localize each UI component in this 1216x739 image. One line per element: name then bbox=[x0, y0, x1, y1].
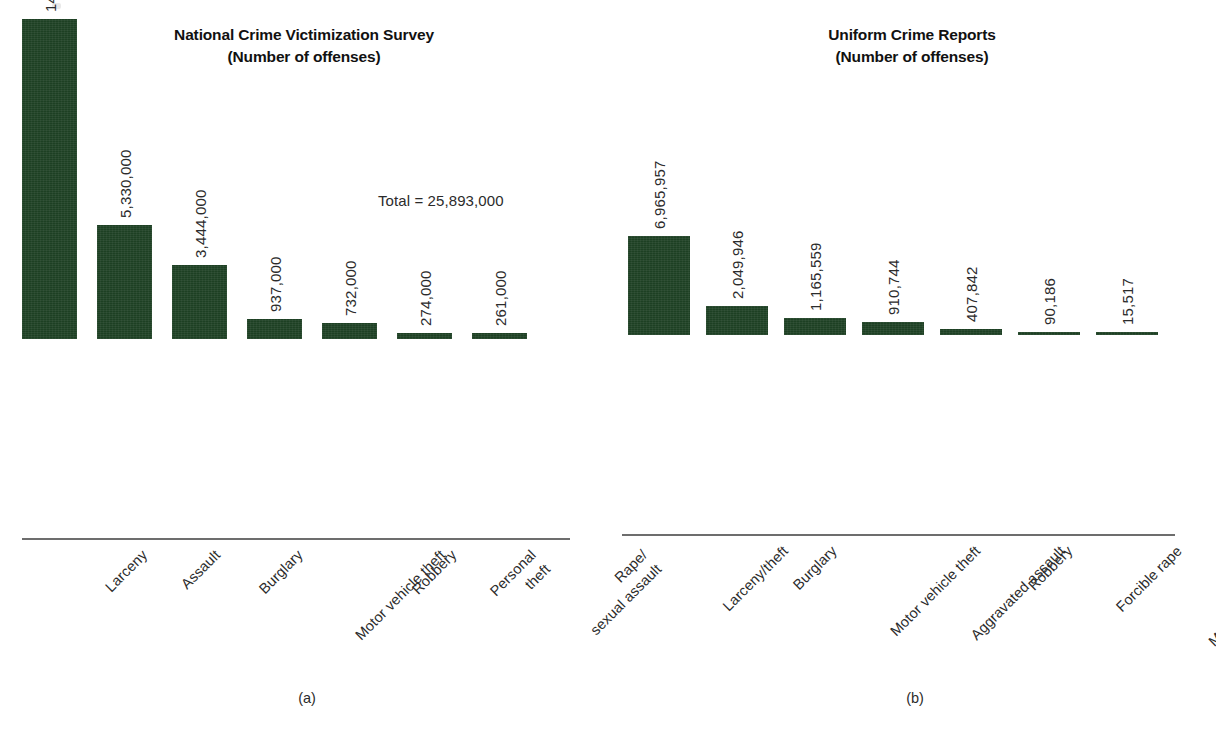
x-axis-label: Larceny/theft bbox=[719, 542, 793, 616]
bar-slot: 90,186 bbox=[1018, 5, 1080, 335]
x-axis-label-line: Larceny bbox=[102, 547, 150, 595]
panel-caption-a: (a) bbox=[287, 690, 327, 706]
bar-value-text: 261,000 bbox=[491, 271, 508, 327]
bar[interactable]: 910,744 bbox=[862, 322, 924, 335]
panel-national-crime-victimization-survey: National Crime Victimization Survey (Num… bbox=[0, 0, 608, 739]
bar[interactable]: 1,165,559 bbox=[784, 318, 846, 335]
bar-slot: 14,916,000 bbox=[22, 9, 77, 339]
panel-uniform-crime-reports: Uniform Crime Reports (Number of offense… bbox=[608, 0, 1216, 739]
bar-value-label: 910,744 bbox=[876, 259, 893, 315]
bar-group-a: 14,916,0005,330,0003,444,000937,000732,0… bbox=[22, 9, 570, 339]
bar[interactable]: 732,000 bbox=[322, 323, 377, 339]
bar[interactable]: 261,000 bbox=[472, 333, 527, 339]
x-axis-labels-b: Larceny/theftBurglaryMotor vehicle theft… bbox=[622, 542, 1175, 682]
bar[interactable]: 274,000 bbox=[397, 333, 452, 339]
bar-slot: 732,000 bbox=[322, 9, 377, 339]
bar[interactable]: 90,186 bbox=[1018, 332, 1080, 335]
x-axis-label-line: Motor vehicle theft bbox=[887, 543, 983, 639]
x-axis-label-line: Assault bbox=[177, 547, 222, 592]
x-axis-label: Murder/nonnegligentmanslaughter bbox=[1205, 542, 1216, 665]
x-axis-label-line: Forcible rape bbox=[1112, 543, 1184, 615]
bar-slot: 261,000 bbox=[472, 9, 527, 339]
x-axis-label: Personaltheft bbox=[485, 546, 554, 615]
bar-value-label: 732,000 bbox=[333, 261, 350, 317]
x-axis-label: Forcible rape bbox=[1112, 542, 1187, 617]
x-axis-label: Assault bbox=[177, 546, 225, 594]
bar-slot: 6,965,957 bbox=[628, 5, 690, 335]
x-axis-label-line: Burglary bbox=[789, 543, 839, 593]
bar-value-label: 15,517 bbox=[1110, 278, 1127, 325]
bar-value-text: 937,000 bbox=[266, 256, 283, 312]
bar[interactable]: 6,965,957 bbox=[628, 236, 690, 335]
bar-value-label: 261,000 bbox=[483, 271, 500, 327]
x-axis-label: Burglary bbox=[255, 546, 308, 599]
x-axis-label-line: Burglary bbox=[256, 547, 306, 597]
bar[interactable]: 15,517 bbox=[1096, 332, 1158, 335]
bar-slot: 274,000 bbox=[397, 9, 452, 339]
bar[interactable]: 14,916,000 bbox=[22, 19, 77, 339]
bar-value-text: 732,000 bbox=[341, 261, 358, 317]
bar-value-label: 90,186 bbox=[1032, 278, 1049, 325]
x-axis-label: Burglary bbox=[789, 542, 842, 595]
crime-statistics-figure: National Crime Victimization Survey (Num… bbox=[0, 0, 1216, 739]
bar-value-text: 1,165,559 bbox=[807, 243, 824, 312]
bar-value-text: 90,186 bbox=[1041, 278, 1058, 325]
bar-value-label: 5,330,000 bbox=[108, 149, 125, 218]
bar-value-label: 14,916,000 bbox=[33, 0, 50, 12]
x-axis-labels-a: LarcenyAssaultBurglaryMotor vehicle thef… bbox=[22, 546, 570, 686]
bar-value-text: 407,842 bbox=[963, 267, 980, 323]
x-axis-label: Larceny bbox=[101, 546, 152, 597]
bar-slot: 910,744 bbox=[862, 5, 924, 335]
bar-group-b: 6,965,9572,049,9461,165,559910,744407,84… bbox=[622, 5, 1175, 335]
bar[interactable]: 407,842 bbox=[940, 329, 1002, 335]
bar-value-label: 274,000 bbox=[408, 271, 425, 327]
bar-slot: 937,000 bbox=[247, 9, 302, 339]
bar-value-label: 2,049,946 bbox=[720, 230, 737, 299]
plot-area-a: 14,916,0005,330,0003,444,000937,000732,0… bbox=[22, 0, 570, 540]
bar-value-label: 6,965,957 bbox=[642, 160, 659, 229]
bar-value-text: 274,000 bbox=[416, 271, 433, 327]
bar[interactable]: 937,000 bbox=[247, 319, 302, 339]
plot-area-b: 6,965,9572,049,9461,165,559910,744407,84… bbox=[622, 0, 1175, 540]
bar-value-label: 937,000 bbox=[258, 256, 275, 312]
x-axis-line-b bbox=[622, 534, 1175, 536]
bar-slot: 5,330,000 bbox=[97, 9, 152, 339]
bar-value-text: 910,744 bbox=[885, 259, 902, 315]
x-axis-label-line: Murder/nonnegligent bbox=[1205, 543, 1216, 650]
bar-slot: 3,444,000 bbox=[172, 9, 227, 339]
bar-value-text: 6,965,957 bbox=[651, 160, 668, 229]
panel-caption-b: (b) bbox=[895, 690, 935, 706]
bar-slot: 2,049,946 bbox=[706, 5, 768, 335]
bar[interactable]: 2,049,946 bbox=[706, 306, 768, 335]
bar[interactable]: 3,444,000 bbox=[172, 265, 227, 339]
bar-value-text: 15,517 bbox=[1119, 278, 1136, 325]
bar-value-label: 3,444,000 bbox=[183, 190, 200, 259]
bar-slot: 407,842 bbox=[940, 5, 1002, 335]
x-axis-label-line: Larceny/theft bbox=[720, 543, 792, 615]
bar-value-text: 14,916,000 bbox=[41, 0, 58, 12]
bar-value-text: 2,049,946 bbox=[729, 230, 746, 299]
bar[interactable]: 5,330,000 bbox=[97, 225, 152, 339]
bar-value-text: 3,444,000 bbox=[191, 190, 208, 259]
x-axis-line-a bbox=[22, 538, 570, 540]
bar-value-label: 407,842 bbox=[954, 267, 971, 323]
bar-value-text: 5,330,000 bbox=[116, 149, 133, 218]
bar-slot: 15,517 bbox=[1096, 5, 1158, 335]
bar-value-label: 1,165,559 bbox=[798, 243, 815, 312]
bar-slot: 1,165,559 bbox=[784, 5, 846, 335]
